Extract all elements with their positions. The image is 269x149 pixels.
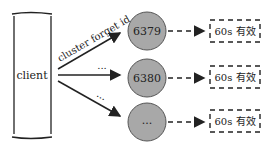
client-box: client	[12, 13, 52, 139]
arrow-label-cluster-forget: cluster forget id	[56, 13, 133, 64]
note-label: 60s 有效	[214, 115, 255, 127]
note-label: 60s 有效	[214, 25, 255, 37]
note-2: 60s 有效	[210, 66, 260, 88]
arrow-label-3: ...	[95, 88, 109, 102]
arrow-to-node-1: cluster forget id	[56, 13, 133, 69]
note-3: 60s 有效	[210, 110, 260, 132]
node-label: 6379	[133, 25, 161, 38]
arrow-to-node-3: ...	[58, 81, 120, 116]
node-6380: 6380	[128, 59, 166, 97]
node-label: ...	[142, 114, 153, 127]
arrow-to-node-2: ...	[58, 60, 120, 75]
node-label: 6380	[133, 72, 161, 85]
note-label: 60s 有效	[214, 71, 255, 83]
client-label: client	[16, 69, 48, 82]
arrow-label-2: ...	[97, 60, 107, 71]
note-1: 60s 有效	[210, 20, 260, 42]
node-6379: 6379	[128, 12, 166, 50]
node-ellipsis: ...	[128, 103, 166, 141]
